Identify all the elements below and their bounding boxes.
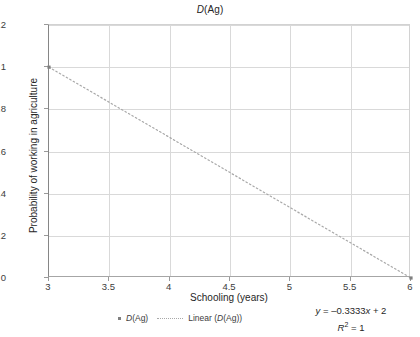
data-point-marker [47,66,50,69]
trendline-equation-annotation: y = –0.3333x + 2 R2 = 1 [288,304,414,335]
equation-line: y = –0.3333x + 2 [288,304,414,318]
y-tick-label: 0.8 [0,103,6,114]
chart-container: D(Ag) Probability of working in agricult… [0,0,420,337]
chart-title-italic-d: D [197,4,204,15]
y-tick-label: 1.2 [0,19,6,30]
x-tick-label: 3.5 [102,281,115,292]
chart-legend: D(Ag) Linear (D(Ag)) [118,313,242,323]
trendline-linear-dag [49,67,411,278]
x-tick-label: 4.5 [222,281,235,292]
series-layer [49,25,411,278]
legend-label-linear-dag: Linear (D(Ag)) [188,313,242,323]
x-tick-label: 5 [287,281,292,292]
x-tick-label: 6 [407,281,412,292]
y-tick-label: 0.6 [0,145,6,156]
legend-label-dag: D(Ag) [126,313,148,323]
plot-area [48,24,410,277]
x-tick-label: 5.5 [343,281,356,292]
legend-entry-linear-dag[interactable]: Linear (D(Ag)) [157,313,242,323]
chart-title-suffix: (Ag) [204,4,223,15]
legend-dotted-line-icon [157,318,183,319]
data-point-marker [409,276,412,279]
chart-title: D(Ag) [0,4,420,15]
y-tick-label: 0.2 [0,229,6,240]
y-tick-label: 0.4 [0,187,6,198]
y-tick-label: 0 [1,272,6,283]
x-axis-title: Schooling (years) [48,292,410,303]
legend-square-marker-icon [118,317,121,320]
y-tick-label: 1 [1,61,6,72]
x-tick-label: 3 [45,281,50,292]
legend-entry-dag[interactable]: D(Ag) [118,313,148,323]
r-squared-line: R2 = 1 [288,318,414,335]
y-axis-title: Probability of working in agriculture [28,41,39,271]
x-tick-label: 4 [166,281,171,292]
